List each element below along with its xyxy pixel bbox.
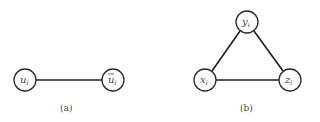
edge-y-z bbox=[254, 31, 283, 71]
node-y: yi bbox=[236, 11, 258, 33]
node-z: zi bbox=[279, 69, 301, 91]
edge-x-y bbox=[212, 31, 240, 71]
caption-a: (a) bbox=[60, 103, 72, 113]
node-u-bar: ui bbox=[102, 69, 124, 91]
node-u: ui bbox=[14, 69, 36, 91]
subfigure-b: yi xi zi (b) bbox=[194, 11, 301, 113]
node-x: xi bbox=[194, 69, 216, 91]
graph-figure: ui ui (a) yi xi zi (b) bbox=[0, 0, 320, 122]
caption-b: (b) bbox=[240, 103, 253, 113]
subfigure-a: ui ui (a) bbox=[14, 69, 124, 113]
